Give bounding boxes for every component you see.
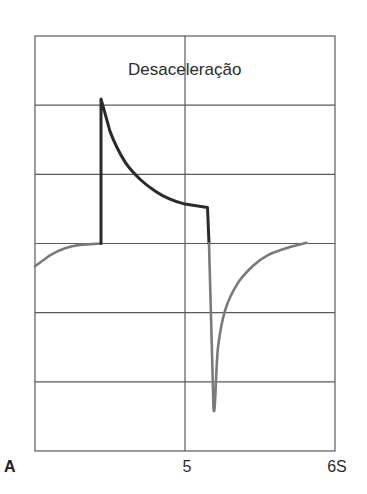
data-series (35, 99, 307, 411)
series-line-1 (101, 99, 209, 244)
x-tick-label-6: 6S (327, 458, 347, 476)
series-line-2 (209, 243, 307, 411)
x-tick-label-5: 5 (183, 458, 192, 476)
grid-lines (35, 36, 335, 451)
chart-title: Desaceleração (128, 60, 241, 80)
series-line-0 (35, 244, 101, 267)
panel-label: A (4, 458, 16, 476)
